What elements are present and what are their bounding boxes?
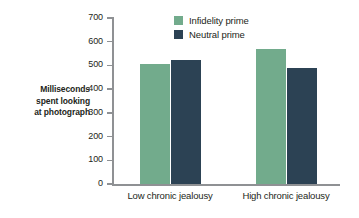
y-tick-mark xyxy=(107,17,112,18)
bars-layer xyxy=(114,18,340,184)
y-tick-mark xyxy=(107,136,112,137)
bar-infidelity-prime xyxy=(140,64,170,184)
legend-item-infidelity-prime[interactable]: Infidelity prime xyxy=(174,14,249,26)
y-tick-mark xyxy=(107,65,112,66)
y-tick-mark xyxy=(107,183,112,184)
y-tick-label: 200 xyxy=(63,131,103,141)
y-tick-label: 700 xyxy=(63,12,103,22)
legend-swatch-icon xyxy=(174,16,183,25)
legend-label: Infidelity prime xyxy=(189,15,249,26)
x-axis-line xyxy=(112,184,340,186)
y-tick-mark xyxy=(107,41,112,42)
y-tick-mark xyxy=(107,160,112,161)
category-label: High chronic jealousy xyxy=(216,190,356,201)
legend-label: Neutral prime xyxy=(189,29,245,40)
y-tick-label: 100 xyxy=(63,154,103,164)
legend-swatch-icon xyxy=(174,30,183,39)
bar-infidelity-prime xyxy=(256,49,286,184)
y-tick-label: 500 xyxy=(63,59,103,69)
bar-neutral-prime xyxy=(171,60,201,185)
y-tick-label: 600 xyxy=(63,36,103,46)
y-tick-label: 0 xyxy=(63,178,103,188)
y-tick-label: 300 xyxy=(63,107,103,117)
bar-chart: Milliseconds spent looking at photograph… xyxy=(0,0,359,218)
legend-item-neutral-prime[interactable]: Neutral prime xyxy=(174,28,249,40)
y-axis-title-line-2: spent looking xyxy=(6,96,90,108)
y-tick-label: 400 xyxy=(63,83,103,93)
y-tick-mark xyxy=(107,112,112,113)
y-tick-mark xyxy=(107,88,112,89)
legend: Infidelity primeNeutral prime xyxy=(174,14,249,42)
bar-neutral-prime xyxy=(287,68,317,184)
